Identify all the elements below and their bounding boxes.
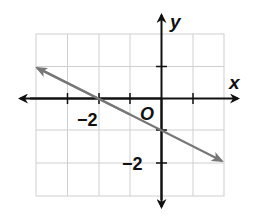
data-line-back [37, 68, 130, 115]
x-axis-label: x [228, 72, 241, 93]
origin-label: O [140, 104, 154, 124]
coordinate-plane: y x O −2 −2 [0, 0, 255, 221]
y-axis-label: y [169, 11, 182, 32]
y-tick-label-neg2: −2 [122, 154, 143, 174]
x-tick-label-neg2: −2 [77, 110, 98, 130]
